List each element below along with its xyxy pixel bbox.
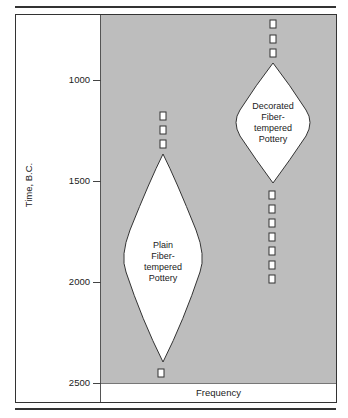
trace-marker	[269, 191, 275, 199]
label-line: tempered	[128, 262, 198, 273]
label-line: Fiber-	[128, 251, 198, 262]
label-line: Pottery	[128, 273, 198, 284]
decorated-pottery-label: Decorated Fiber- tempered Pottery	[238, 101, 308, 145]
trace-marker	[269, 219, 275, 227]
label-line: Fiber-	[238, 112, 308, 123]
trace-marker	[160, 126, 166, 134]
label-line: Decorated	[238, 101, 308, 112]
label-line: tempered	[238, 123, 308, 134]
trace-marker	[160, 140, 166, 148]
trace-marker	[270, 49, 276, 57]
trace-marker	[158, 369, 164, 377]
decorated-pottery-series	[236, 20, 310, 283]
seriation-shapes	[0, 0, 348, 418]
trace-marker	[269, 275, 275, 283]
trace-marker	[270, 20, 276, 28]
trace-marker	[269, 205, 275, 213]
label-line: Plain	[128, 240, 198, 251]
trace-marker	[269, 247, 275, 255]
label-line: Pottery	[238, 134, 308, 145]
trace-marker	[160, 112, 166, 120]
trace-marker	[269, 233, 275, 241]
trace-marker	[270, 35, 276, 43]
plain-pottery-label: Plain Fiber- tempered Pottery	[128, 240, 198, 284]
trace-marker	[269, 261, 275, 269]
